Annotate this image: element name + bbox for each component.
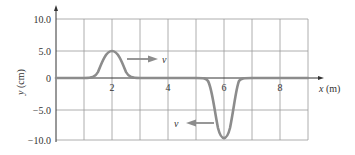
y-tick-0: 0 [46,73,51,84]
velocity-label-left: v [174,118,179,129]
velocity-arrow-right: v [127,54,167,65]
y-tick-5: 5.0 [39,46,52,57]
grid [56,19,308,140]
arrow-right-icon [148,56,158,63]
wave-curve [56,51,308,138]
x-tick-4: 4 [166,82,171,93]
y-axis [54,5,58,142]
y-axis-arrow-icon [54,5,58,11]
y-tick-10: 10.0 [34,14,52,25]
x-axis-arrow-icon [318,76,324,80]
velocity-arrow-left: v [174,118,214,129]
x-tick-6: 6 [222,82,227,93]
x-axis-label: x (m) [318,83,340,95]
wave-pulse-chart: v v 10.0 5.0 0 −5.0 −10.0 2 4 6 8 x (m) … [0,0,355,155]
x-tick-2: 2 [110,82,115,93]
velocity-label-right: v [162,54,167,65]
y-axis-label: y (cm) [15,69,27,96]
y-tick-labels: 10.0 5.0 0 −5.0 −10.0 [28,14,51,146]
x-tick-8: 8 [278,82,283,93]
arrow-left-icon [186,120,196,127]
y-tick-neg10: −10.0 [28,135,51,146]
y-tick-neg5: −5.0 [33,105,51,116]
